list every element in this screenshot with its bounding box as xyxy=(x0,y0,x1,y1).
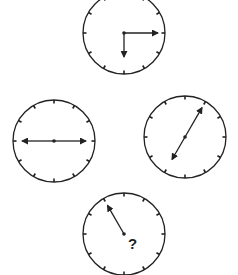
hour-tick xyxy=(217,117,220,119)
hour-tick xyxy=(88,13,91,15)
hour-tick xyxy=(156,253,159,255)
clocks-group xyxy=(13,0,226,275)
center-dot xyxy=(122,31,126,35)
hour-tick xyxy=(143,65,145,68)
hour-tick xyxy=(104,65,106,68)
hour-tick xyxy=(73,173,75,176)
hour-tick xyxy=(18,160,21,162)
hour-tick xyxy=(104,266,106,269)
hour-tick xyxy=(88,214,91,216)
hour-tick xyxy=(143,0,145,1)
center-dot xyxy=(52,139,56,143)
clock-top xyxy=(83,0,165,74)
clock-right xyxy=(144,96,226,178)
hour-tick xyxy=(165,101,167,104)
hour-tick xyxy=(143,198,145,201)
hour-tick xyxy=(156,52,159,54)
hour-tick xyxy=(156,13,159,15)
center-dot xyxy=(183,135,187,139)
hour-tick xyxy=(204,101,206,104)
center-dot xyxy=(122,232,126,236)
hour-tick xyxy=(204,169,206,172)
hour-tick xyxy=(88,52,91,54)
clock-hand xyxy=(185,108,202,137)
hour-tick xyxy=(104,198,106,201)
clock-left xyxy=(13,100,95,182)
clock-hand xyxy=(108,205,125,234)
clock-hand xyxy=(172,137,185,160)
hour-tick xyxy=(165,169,167,172)
hour-tick xyxy=(143,266,145,269)
clock-puzzle-diagram xyxy=(0,0,238,275)
question-mark: ? xyxy=(128,236,137,251)
hour-tick xyxy=(149,156,152,158)
hour-tick xyxy=(73,105,75,108)
hour-tick xyxy=(18,121,21,123)
hour-tick xyxy=(149,117,152,119)
hour-tick xyxy=(104,0,106,1)
clock-bottom xyxy=(83,193,165,275)
hour-tick xyxy=(34,173,36,176)
hour-tick xyxy=(88,253,91,255)
hour-tick xyxy=(86,121,89,123)
hour-tick xyxy=(156,214,159,216)
hour-tick xyxy=(217,156,220,158)
hour-tick xyxy=(86,160,89,162)
hour-tick xyxy=(34,105,36,108)
